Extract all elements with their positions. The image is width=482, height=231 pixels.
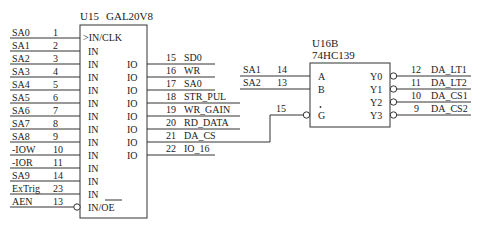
svg-text:IN: IN [88,98,99,109]
u15-ref: U15 [80,10,99,22]
svg-text:IN/OE: IN/OE [88,202,115,213]
svg-text:4: 4 [53,66,58,77]
svg-text:11: 11 [411,77,421,88]
svg-text:SA2: SA2 [243,77,261,88]
svg-text:21: 21 [166,130,176,141]
svg-text:3: 3 [53,53,58,64]
svg-text:16: 16 [166,65,176,76]
svg-text:12: 12 [411,64,421,75]
svg-text:-IOR: -IOR [12,157,33,168]
inversion-bubble [390,99,396,105]
svg-text:SA3: SA3 [12,66,30,77]
svg-text:22: 22 [166,143,176,154]
svg-text:10: 10 [411,90,421,101]
svg-text:IN: IN [88,72,99,83]
svg-text:18: 18 [166,91,176,102]
svg-text:7: 7 [53,105,58,116]
svg-text:Y2: Y2 [370,97,382,108]
svg-text:SA9: SA9 [12,170,30,181]
svg-text:13: 13 [277,77,287,88]
svg-text:G: G [318,110,325,121]
svg-text:23: 23 [53,183,63,194]
g-dot [320,106,322,108]
svg-text:Y3: Y3 [370,110,382,121]
inversion-bubble [74,204,80,210]
svg-text:19: 19 [166,104,176,115]
svg-text:11: 11 [53,157,63,168]
svg-text:Y0: Y0 [370,71,382,82]
svg-text:SA0: SA0 [184,78,202,89]
u16b-ref: U16B [312,37,338,49]
svg-text:DA_LT1: DA_LT1 [431,64,467,75]
svg-text:IO: IO [127,59,138,70]
svg-text:1: 1 [53,27,58,38]
svg-text:SA5: SA5 [12,92,30,103]
svg-text:SA8: SA8 [12,131,30,142]
svg-text:IO: IO [127,72,138,83]
svg-text:IN: IN [88,46,99,57]
svg-text:B: B [318,84,325,95]
svg-text:15: 15 [276,103,286,114]
svg-text:SA4: SA4 [12,79,30,90]
svg-text:ExTrig: ExTrig [12,183,40,194]
svg-text:IO: IO [127,98,138,109]
svg-text:IO: IO [127,150,138,161]
svg-text:IN: IN [88,85,99,96]
u15-part: GAL20V8 [106,10,154,22]
inversion-bubble [390,73,396,79]
svg-text:15: 15 [166,52,176,63]
svg-text:14: 14 [277,64,287,75]
svg-text:2: 2 [53,40,58,51]
svg-text:IO: IO [127,111,138,122]
inversion-bubble [303,112,309,118]
inversion-bubble [390,86,396,92]
svg-text:STR_PUL: STR_PUL [184,91,226,102]
svg-text:14: 14 [53,170,63,181]
svg-text:5: 5 [53,79,58,90]
svg-text:IN: IN [88,189,99,200]
svg-text:DA_LT2: DA_LT2 [431,77,467,88]
svg-text:IN: IN [88,111,99,122]
svg-text:IN: IN [88,176,99,187]
svg-text:13: 13 [53,196,63,207]
u15-chip[interactable]: U15 GAL20V8 SA0 1 >IN/CLK SA1 2 IN SA2 3 [10,10,303,218]
svg-text:SA1: SA1 [12,40,30,51]
svg-text:IN: IN [88,163,99,174]
svg-text:IO: IO [127,124,138,135]
u16b-chip[interactable]: U16B 74HC139 SA1 14 A SA2 13 B 15 G [240,37,471,127]
svg-text:9: 9 [53,131,58,142]
svg-text:20: 20 [166,117,176,128]
svg-text:SA6: SA6 [12,105,30,116]
svg-text:DA_CS2: DA_CS2 [431,103,468,114]
svg-text:DA_CS1: DA_CS1 [431,90,468,101]
svg-text:9: 9 [414,103,419,114]
svg-text:IN: IN [88,124,99,135]
svg-text:A: A [318,71,326,82]
svg-text:IO: IO [127,137,138,148]
svg-text:DA_CS: DA_CS [184,130,216,141]
svg-text:WR: WR [184,65,200,76]
svg-text:10: 10 [53,144,63,155]
svg-text:Y1: Y1 [370,84,382,95]
svg-text:SA1: SA1 [243,64,261,75]
svg-text:6: 6 [53,92,58,103]
svg-text:SA2: SA2 [12,53,30,64]
schematic-canvas: U15 GAL20V8 SA0 1 >IN/CLK SA1 2 IN SA2 3 [0,0,482,231]
svg-text:8: 8 [53,118,58,129]
svg-text:>IN/CLK: >IN/CLK [83,32,123,43]
svg-text:SA7: SA7 [12,118,30,129]
svg-text:SD0: SD0 [184,52,202,63]
svg-text:AEN: AEN [12,196,33,207]
svg-text:-IOW: -IOW [12,144,36,155]
inversion-bubble [390,112,396,118]
svg-text:RD_DATA: RD_DATA [184,117,230,128]
svg-text:17: 17 [166,78,176,89]
svg-text:WR_GAIN: WR_GAIN [184,104,230,115]
svg-text:IO: IO [127,85,138,96]
svg-text:IN: IN [88,150,99,161]
svg-text:IN: IN [88,137,99,148]
svg-text:SA0: SA0 [12,27,30,38]
u16b-part: 74HC139 [312,49,355,61]
svg-text:IN: IN [88,59,99,70]
svg-text:IO_16: IO_16 [184,143,210,154]
